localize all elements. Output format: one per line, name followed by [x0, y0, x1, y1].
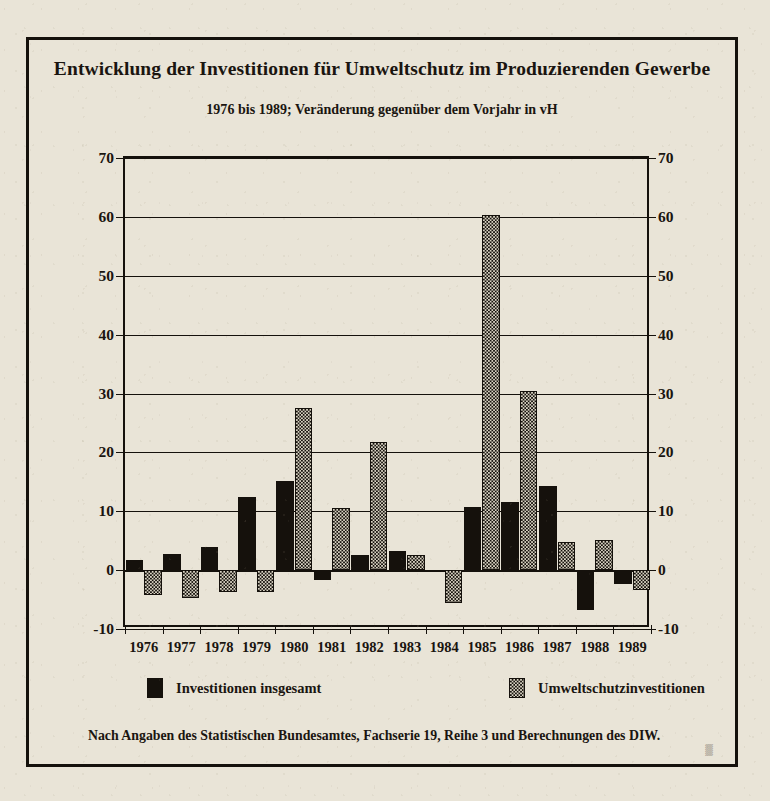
x-tick-mark — [388, 625, 389, 634]
gridline — [125, 629, 647, 630]
legend-label: Investitionen insgesamt — [176, 680, 321, 697]
page-mark-icon: ▒ — [705, 743, 713, 755]
bar-investitionen-insgesamt — [539, 486, 557, 570]
legend-swatch-icon — [147, 678, 163, 698]
bar-investitionen-insgesamt — [464, 507, 482, 571]
x-tick-mark — [275, 625, 276, 634]
y-tick-mark — [116, 276, 125, 277]
x-tick-label-1978: 1978 — [204, 639, 233, 656]
bar-investitionen-insgesamt — [577, 570, 595, 610]
bars-layer — [125, 158, 647, 625]
bar-group — [463, 158, 501, 625]
bar-group — [426, 158, 464, 625]
x-tick-mark — [426, 625, 427, 634]
bar-umweltschutzinvestitionen — [633, 570, 651, 589]
plot-area: -10010203040506070 -10010203040506070 19… — [123, 156, 649, 627]
bar-investitionen-insgesamt — [276, 481, 294, 570]
x-tick-mark — [538, 625, 539, 634]
x-tick-mark — [463, 625, 464, 634]
y-tick-mark — [116, 158, 125, 159]
bar-investitionen-insgesamt — [314, 570, 332, 579]
chart-frame-border: Entwicklung der Investitionen für Umwelt… — [26, 37, 738, 767]
legend-item-umweltschutzinvestitionen: Umweltschutzinvestitionen — [509, 678, 705, 698]
bar-umweltschutzinvestitionen — [182, 570, 200, 598]
x-tick-label-1989: 1989 — [618, 639, 647, 656]
y-tick-label: 10 — [658, 503, 674, 519]
y-tick-label: -10 — [658, 621, 679, 637]
y-tick-label: 70 — [658, 150, 674, 166]
bar-investitionen-insgesamt — [201, 547, 219, 571]
bar-umweltschutzinvestitionen — [257, 570, 275, 592]
bar-group — [163, 158, 201, 625]
x-tick-label-1976: 1976 — [129, 639, 158, 656]
y-tick-label: 50 — [658, 268, 674, 284]
chart-legend: Investitionen insgesamtUmweltschutzinves… — [123, 678, 695, 704]
y-tick-mark — [116, 335, 125, 336]
bar-umweltschutzinvestitionen — [332, 508, 350, 570]
bar-umweltschutzinvestitionen — [482, 215, 500, 571]
x-tick-label-1977: 1977 — [167, 639, 196, 656]
x-tick-mark — [576, 625, 577, 634]
x-tick-mark — [163, 625, 164, 634]
bar-group — [538, 158, 576, 625]
bar-umweltschutzinvestitionen — [558, 542, 576, 570]
bar-group — [313, 158, 351, 625]
y-tick-mark — [116, 452, 125, 453]
legend-swatch-icon — [509, 678, 525, 698]
bar-group — [576, 158, 614, 625]
legend-label: Umweltschutzinvestitionen — [538, 680, 705, 697]
y-tick-mark — [116, 570, 125, 571]
y-tick-label: -10 — [93, 621, 114, 637]
bar-group — [275, 158, 313, 625]
bar-investitionen-insgesamt — [614, 570, 632, 584]
bar-investitionen-insgesamt — [126, 560, 144, 571]
x-tick-mark — [651, 625, 652, 634]
bar-investitionen-insgesamt — [389, 551, 407, 570]
bar-group — [238, 158, 276, 625]
x-tick-mark — [350, 625, 351, 634]
bar-group — [388, 158, 426, 625]
y-tick-label: 20 — [99, 444, 115, 460]
y-tick-mark — [116, 511, 125, 512]
x-tick-label-1983: 1983 — [392, 639, 421, 656]
y-tick-label: 20 — [658, 444, 674, 460]
chart-title: Entwicklung der Investitionen für Umwelt… — [29, 58, 735, 80]
x-tick-mark — [238, 625, 239, 634]
bar-umweltschutzinvestitionen — [370, 442, 388, 570]
bar-group — [125, 158, 163, 625]
x-tick-label-1980: 1980 — [280, 639, 309, 656]
y-tick-mark — [116, 394, 125, 395]
x-tick-mark — [313, 625, 314, 634]
x-tick-label-1982: 1982 — [355, 639, 384, 656]
y-tick-label: 60 — [99, 209, 115, 225]
x-tick-label-1981: 1981 — [317, 639, 346, 656]
bar-umweltschutzinvestitionen — [520, 391, 538, 570]
x-tick-label-1986: 1986 — [505, 639, 534, 656]
y-tick-label: 30 — [99, 386, 115, 402]
y-tick-label: 60 — [658, 209, 674, 225]
y-tick-label: 40 — [99, 327, 115, 343]
bar-group — [501, 158, 539, 625]
x-tick-mark — [200, 625, 201, 634]
bar-umweltschutzinvestitionen — [445, 570, 463, 602]
source-note: Nach Angaben des Statistischen Bundesamt… — [88, 726, 698, 745]
y-tick-label: 10 — [99, 503, 115, 519]
y-tick-label: 40 — [658, 327, 674, 343]
y-tick-mark — [116, 629, 125, 630]
bar-umweltschutzinvestitionen — [144, 570, 162, 595]
y-tick-label: 50 — [99, 268, 115, 284]
bar-umweltschutzinvestitionen — [295, 408, 313, 570]
bar-investitionen-insgesamt — [163, 554, 181, 570]
x-tick-label-1987: 1987 — [543, 639, 572, 656]
bar-umweltschutzinvestitionen — [595, 540, 613, 570]
x-tick-label-1979: 1979 — [242, 639, 271, 656]
chart-card: Entwicklung der Investitionen für Umwelt… — [29, 40, 735, 764]
legend-item-investitionen-insgesamt: Investitionen insgesamt — [147, 678, 321, 698]
chart-subtitle: 1976 bis 1989; Veränderung gegenüber dem… — [29, 102, 735, 118]
x-tick-mark — [125, 625, 126, 634]
x-tick-label-1985: 1985 — [467, 639, 496, 656]
x-tick-mark — [613, 625, 614, 634]
x-tick-label-1988: 1988 — [580, 639, 609, 656]
bar-investitionen-insgesamt — [501, 502, 519, 570]
bar-umweltschutzinvestitionen — [407, 555, 425, 570]
